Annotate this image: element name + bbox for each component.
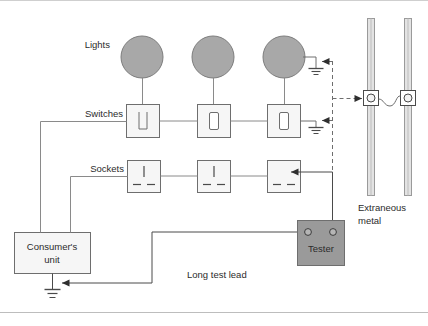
switches-group <box>127 105 301 138</box>
clamp-right-bolt-icon <box>404 94 412 102</box>
bonding-conductor <box>379 96 401 106</box>
long-test-lead-label: Long test lead <box>187 269 247 280</box>
long-test-lead-group <box>62 232 308 283</box>
tester-label: Tester <box>308 243 334 254</box>
lights-label: Lights <box>85 39 111 50</box>
switch-1 <box>127 105 160 138</box>
tester-terminal-right[interactable] <box>330 229 337 236</box>
light-3 <box>263 36 305 78</box>
socket-3 <box>268 161 301 193</box>
sockets-label: Sockets <box>90 163 124 174</box>
consumer-unit-label-line1: Consumer's <box>27 241 78 252</box>
earth-light-3 <box>309 69 324 75</box>
test-probe-dashed-path <box>291 61 362 232</box>
earth-switch-3 <box>309 128 324 134</box>
switches-label: Switches <box>85 108 123 119</box>
extraneous-metal-label-line2: metal <box>358 215 381 226</box>
wiring-diagram: Tester Lights Switches Sockets Consumer'… <box>0 0 428 326</box>
light-3-earth-group <box>303 57 324 75</box>
lights-group <box>121 36 305 104</box>
socket-circuit-riser <box>71 177 128 233</box>
switch-3-earth-group <box>301 121 324 134</box>
diagram-canvas: Tester Lights Switches Sockets Consumer'… <box>0 0 428 326</box>
earth-consumer-unit <box>45 290 61 298</box>
consumer-unit-group <box>15 122 128 298</box>
light-2 <box>192 36 234 78</box>
tester-terminal-left[interactable] <box>305 229 312 236</box>
extraneous-metal-label-line1: Extraneous <box>358 202 406 213</box>
long-test-lead-wire <box>62 232 308 283</box>
clamp-left-bolt-icon <box>367 94 375 102</box>
light-1 <box>121 36 163 78</box>
switch-3-rocker <box>280 113 289 130</box>
sockets-group <box>128 161 301 193</box>
tester-group: Tester <box>298 221 345 266</box>
extraneous-metal-group <box>364 19 416 196</box>
switch-2-rocker <box>210 113 219 130</box>
consumer-unit <box>15 233 91 274</box>
consumer-unit-label-line2: unit <box>44 254 60 265</box>
